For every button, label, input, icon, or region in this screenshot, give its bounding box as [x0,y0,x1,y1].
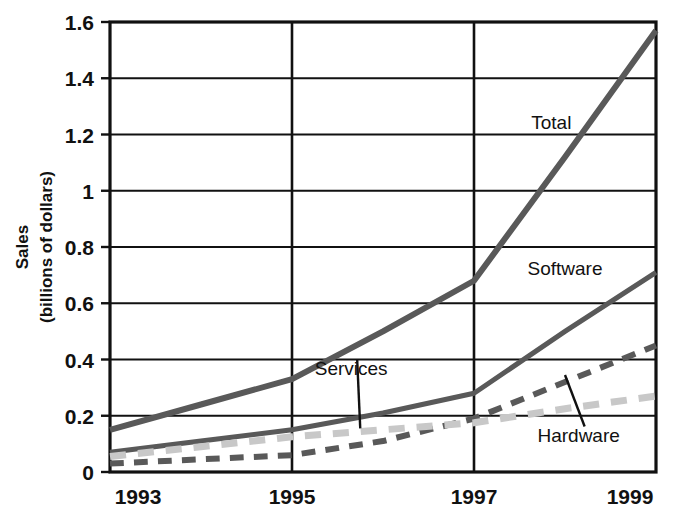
series-label-services: Services [315,358,388,379]
chart-canvas: 00.20.40.60.811.21.41.6 1993199519971999… [0,0,674,527]
y-tick-label-0: 0 [82,461,94,484]
x-tick-label-1995: 1995 [269,485,316,508]
y-axis-tick-labels: 00.20.40.60.811.21.41.6 [65,11,95,484]
series-label-hardware: Hardware [537,425,619,446]
sales-line-chart: 00.20.40.60.811.21.41.6 1993199519971999… [0,0,674,527]
y-tick-label-0.2: 0.2 [65,405,94,428]
leader-line-hardware [565,375,585,427]
x-tick-label-1997: 1997 [451,485,498,508]
series-label-total: Total [531,112,571,133]
y-axis-title-line2: (billions of dollars) [37,171,56,323]
y-tick-label-1.6: 1.6 [65,11,94,34]
y-tick-label-1.2: 1.2 [65,124,94,147]
y-tick-label-0.6: 0.6 [65,292,94,315]
y-tick-label-1.4: 1.4 [65,67,95,90]
y-tick-label-0.8: 0.8 [65,236,95,259]
x-tick-label-1993: 1993 [115,485,162,508]
y-axis-title: Sales (billions of dollars) [13,171,56,323]
y-axis-title-line1: Sales [13,225,32,269]
y-tick-label-0.4: 0.4 [65,349,95,372]
x-tick-label-1999: 1999 [607,485,654,508]
series-label-software: Software [528,258,603,279]
y-tick-label-1: 1 [82,180,94,203]
x-axis-tick-labels: 1993199519971999 [115,485,654,508]
